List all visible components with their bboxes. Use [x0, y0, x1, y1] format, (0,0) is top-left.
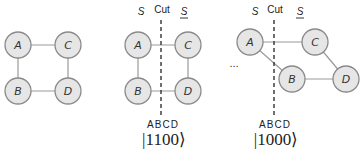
node-c: C	[302, 29, 328, 55]
graph-1: A C B D	[5, 32, 81, 104]
set-s-bar-label: S	[297, 6, 304, 17]
node-label: B	[134, 85, 142, 98]
cut-label: Cut	[154, 4, 170, 15]
node-b: B	[279, 66, 305, 92]
node-d: D	[175, 78, 201, 104]
node-label: D	[184, 85, 192, 98]
node-label: C	[64, 39, 72, 52]
maxcut-diagram: A C B D S Cut S A C B D ABCD |1100⟩ ... …	[0, 0, 361, 149]
ellipsis: ...	[229, 57, 238, 69]
node-b: B	[125, 78, 151, 104]
node-label: A	[133, 39, 142, 52]
node-d: D	[333, 66, 359, 92]
node-label: A	[13, 39, 22, 52]
node-a: A	[5, 32, 31, 58]
state-ket: |1100⟩	[142, 130, 186, 149]
node-c: C	[175, 32, 201, 58]
set-s-bar-label: S	[181, 6, 188, 17]
node-label: A	[245, 36, 254, 49]
node-a: A	[237, 29, 263, 55]
node-label: B	[14, 85, 22, 98]
set-s-label: S	[138, 6, 145, 17]
qubit-order-label: ABCD	[259, 119, 291, 130]
cut-label: Cut	[267, 4, 283, 15]
node-label: D	[64, 85, 72, 98]
set-s-label: S	[252, 6, 259, 17]
node-label: C	[184, 39, 192, 52]
node-b: B	[5, 78, 31, 104]
qubit-order-label: ABCD	[147, 119, 179, 130]
graph-2: S Cut S A C B D ABCD |1100⟩	[125, 4, 201, 149]
node-label: C	[311, 36, 319, 49]
graph-3: S Cut S A C B D ABCD |1000⟩	[237, 4, 359, 149]
node-label: D	[342, 73, 350, 86]
node-a: A	[125, 32, 151, 58]
node-c: C	[55, 32, 81, 58]
node-d: D	[55, 78, 81, 104]
state-ket: |1000⟩	[254, 130, 298, 149]
node-label: B	[288, 73, 296, 86]
